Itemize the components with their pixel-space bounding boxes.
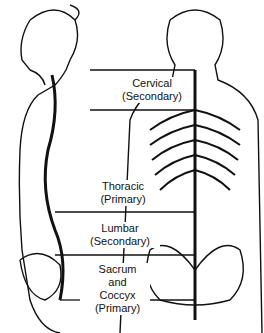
label-cervical: Cervical (Secondary): [112, 77, 192, 103]
label-lumbar: Lumbar (Secondary): [80, 222, 160, 248]
side-body-outline: [19, 10, 77, 333]
label-thoracic: Thoracic (Primary): [88, 180, 158, 206]
label-sacrum-coccyx: Sacrum and Coccyx (Primary): [85, 263, 150, 315]
back-body-outline: [170, 10, 262, 333]
